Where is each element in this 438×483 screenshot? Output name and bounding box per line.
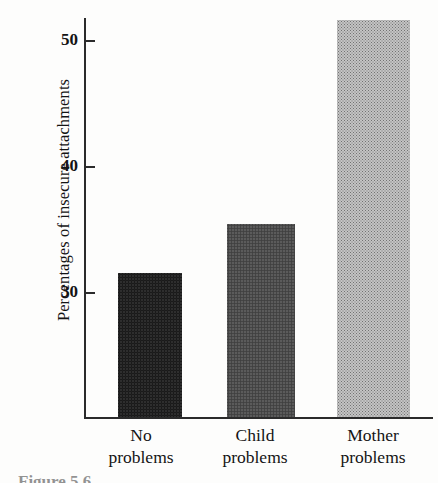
y-axis-label: Percentages of insecure attachments	[54, 40, 74, 360]
y-tick-label-30: 30	[36, 283, 78, 300]
y-tick-label-50: 50	[36, 31, 78, 48]
x-category-line1-no-problems: No	[96, 424, 186, 446]
x-category-label-child-problems: Child problems	[206, 424, 304, 469]
x-category-line1-mother-problems: Mother	[320, 424, 426, 446]
figure-container: Percentages of insecure attachments 50 4…	[0, 0, 438, 483]
x-category-line1-child-problems: Child	[206, 424, 304, 446]
x-category-line2-no-problems: problems	[96, 446, 186, 468]
bar-fill-mother-problems	[337, 20, 410, 417]
plot-area	[84, 18, 433, 417]
x-category-label-mother-problems: Mother problems	[320, 424, 426, 469]
bar-mother-problems[interactable]	[337, 20, 410, 417]
figure-caption-clipped: Figure 5.6	[18, 472, 91, 483]
x-category-line2-child-problems: problems	[206, 446, 304, 468]
bar-fill-no-problems	[118, 273, 182, 417]
x-category-line2-mother-problems: problems	[320, 446, 426, 468]
y-tick-label-40: 40	[36, 157, 78, 174]
bar-no-problems[interactable]	[118, 273, 182, 417]
x-category-label-no-problems: No problems	[96, 424, 186, 469]
bar-fill-child-problems	[227, 224, 295, 417]
x-axis-line	[84, 417, 433, 419]
bar-child-problems[interactable]	[227, 224, 295, 417]
